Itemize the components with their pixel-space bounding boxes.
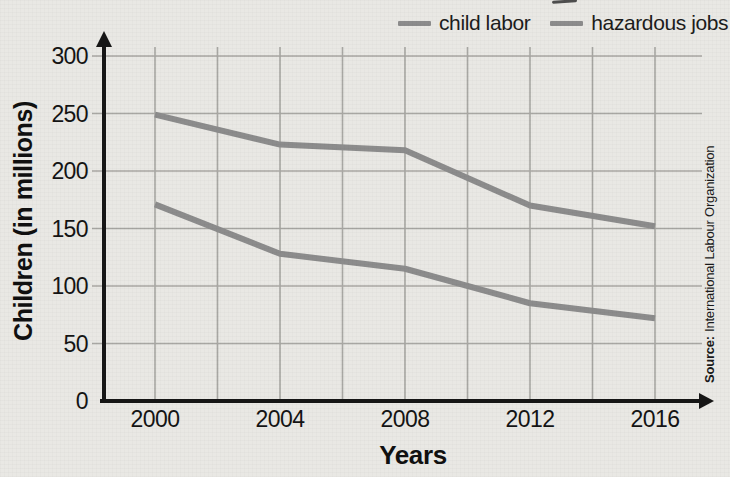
y-tick-label: 150 xyxy=(38,217,88,241)
x-tick-label: 2012 xyxy=(484,407,576,431)
x-axis-title: Years xyxy=(313,440,513,471)
y-tick-label: 0 xyxy=(38,389,88,413)
x-axis-arrow-icon xyxy=(699,393,714,409)
chart-canvas: child labor hazardous jobs Children (in … xyxy=(0,0,730,477)
source-label: Source: xyxy=(702,336,717,383)
x-tick-label: 2016 xyxy=(609,407,701,431)
x-tick-label: 2004 xyxy=(234,407,326,431)
y-tick-label: 50 xyxy=(38,332,88,356)
source-note: Source:International Labour Organization xyxy=(702,130,719,383)
x-tick-label: 2008 xyxy=(359,407,451,431)
y-axis-arrow-icon xyxy=(96,31,112,47)
line-chart-plot xyxy=(0,0,730,477)
y-tick-label: 100 xyxy=(38,274,88,298)
y-tick-label: 250 xyxy=(38,102,88,126)
gridlines xyxy=(92,47,702,401)
y-tick-label: 300 xyxy=(38,44,88,68)
y-tick-label: 200 xyxy=(38,159,88,183)
x-tick-label: 2000 xyxy=(109,407,201,431)
y-axis-title: Children (in millions) xyxy=(9,90,37,352)
source-text: International Labour Organization xyxy=(702,146,717,332)
